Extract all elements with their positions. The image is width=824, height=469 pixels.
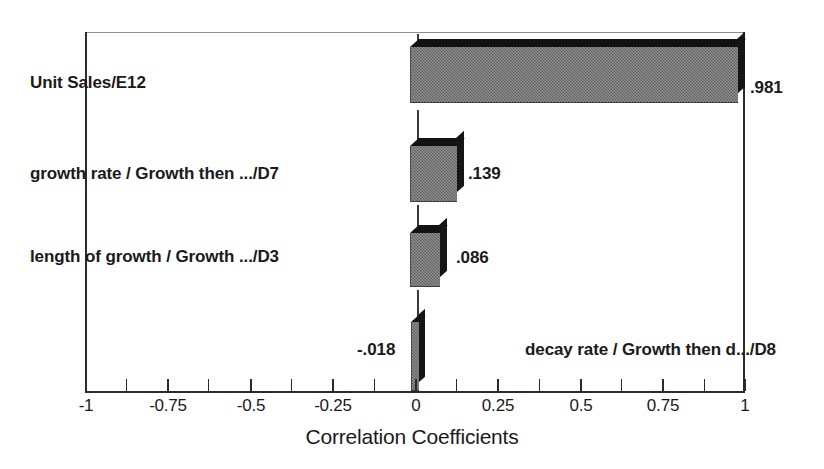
x-tick-label-075: 0.75 xyxy=(647,396,679,416)
x-tick-minor xyxy=(126,379,127,391)
category-label-length-of-growth: length of growth / Growth .../D3 xyxy=(30,247,279,267)
plot-frame-top xyxy=(85,32,745,33)
bar-side-face xyxy=(418,309,425,383)
value-label-decay-rate: -.018 xyxy=(357,340,395,360)
bar-unit-sales xyxy=(410,47,737,102)
x-tick-neg075 xyxy=(167,379,169,391)
bar-length-of-growth xyxy=(410,233,439,286)
x-tick-neg1 xyxy=(85,379,87,391)
x-tick-minor xyxy=(291,379,292,391)
category-label-decay-rate: decay rate / Growth then d.../D8 xyxy=(525,340,776,360)
x-tick-minor xyxy=(456,379,457,391)
x-tick-label-zero: 0 xyxy=(411,396,420,416)
category-label-growth-rate: growth rate / Growth then .../D7 xyxy=(30,164,279,184)
x-tick-neg05 xyxy=(250,379,252,391)
x-tick-minor xyxy=(539,379,540,391)
x-tick-label-neg05: -0.5 xyxy=(237,396,266,416)
x-tick-minor xyxy=(621,379,622,391)
x-tick-label-neg075: -0.75 xyxy=(149,396,187,416)
x-tick-label-025: 0.25 xyxy=(482,396,514,416)
bar-side-face xyxy=(456,131,464,193)
x-tick-1 xyxy=(744,379,746,391)
x-tick-label-05: 0.5 xyxy=(569,396,592,416)
bar-front-face xyxy=(410,47,738,103)
x-tick-label-1: 1 xyxy=(740,396,749,416)
bar-front-face xyxy=(410,233,440,287)
bar-side-face xyxy=(737,32,745,94)
x-tick-label-neg1: -1 xyxy=(79,396,94,416)
x-tick-05 xyxy=(580,379,582,391)
x-tick-075 xyxy=(662,379,664,391)
value-label-unit-sales: .981 xyxy=(750,78,783,98)
x-tick-zero xyxy=(415,379,417,391)
x-tick-minor xyxy=(704,379,705,391)
bar-side-face xyxy=(439,218,447,278)
x-tick-025 xyxy=(497,379,499,391)
bar-top-face xyxy=(410,39,746,47)
x-tick-neg025 xyxy=(332,379,334,391)
x-axis-title: Correlation Coefficients xyxy=(0,425,824,449)
value-label-length-of-growth: .086 xyxy=(456,248,489,268)
x-axis-line xyxy=(85,391,745,393)
correlation-coefficients-bar-chart: Unit Sales/E12 .981 growth rate / Growth… xyxy=(0,0,824,469)
category-label-unit-sales: Unit Sales/E12 xyxy=(30,73,146,93)
x-tick-label-neg025: -0.25 xyxy=(314,396,352,416)
x-tick-minor xyxy=(208,379,209,391)
bar-growth-rate xyxy=(410,146,456,201)
x-tick-minor xyxy=(374,379,375,391)
value-label-growth-rate: .139 xyxy=(468,164,501,184)
bar-front-face xyxy=(410,146,457,202)
